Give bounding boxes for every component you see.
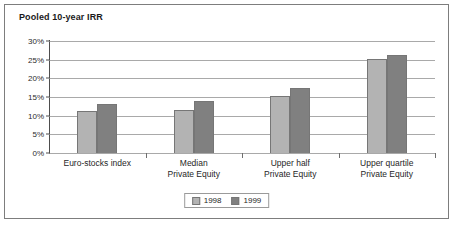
category-separator	[435, 153, 436, 158]
x-axis-category-label-line: Median	[146, 158, 243, 169]
y-axis-tick-label: 15%	[28, 93, 44, 102]
x-axis-category-label-line: Upper half	[242, 158, 339, 169]
y-axis-tick-label: 20%	[28, 74, 44, 83]
legend-label: 1998	[204, 196, 222, 205]
x-axis-category-label-line: Upper quartile	[339, 158, 436, 169]
x-axis-category-label: Upper halfPrivate Equity	[242, 158, 339, 179]
bar-group	[49, 41, 146, 153]
chart-figure: Pooled 10-year IRR 30%25%20%15%10%5%0% E…	[4, 4, 449, 219]
plot-area: 30%25%20%15%10%5%0%	[49, 41, 435, 153]
legend-item-1998[interactable]: 1998	[192, 196, 222, 205]
bar-1999[interactable]	[97, 104, 117, 153]
bar-1998[interactable]	[174, 110, 194, 153]
x-axis-category-label-line: Private Equity	[339, 169, 436, 180]
legend-item-1999[interactable]: 1999	[232, 196, 262, 205]
x-axis-category-label: Upper quartilePrivate Equity	[339, 158, 436, 179]
y-axis-tick-label: 5%	[32, 130, 44, 139]
bar-1998[interactable]	[367, 59, 387, 153]
bar-1998[interactable]	[77, 111, 97, 153]
y-axis-tick-label: 0%	[32, 149, 44, 158]
x-axis-category-label-line: Private Equity	[146, 169, 243, 180]
chart-title: Pooled 10-year IRR	[19, 12, 103, 22]
x-axis-category-label-line: Private Equity	[242, 169, 339, 180]
y-axis-tick-label: 25%	[28, 55, 44, 64]
legend-swatch-1998	[192, 197, 200, 205]
x-axis-category-label: Euro-stocks index	[49, 158, 146, 169]
legend-label: 1999	[244, 196, 262, 205]
y-axis-tick-label: 30%	[28, 37, 44, 46]
bar-1998[interactable]	[270, 96, 290, 153]
bar-group	[339, 41, 436, 153]
legend-swatch-1999	[232, 197, 240, 205]
bar-1999[interactable]	[194, 101, 214, 153]
bar-1999[interactable]	[290, 88, 310, 153]
bar-1999[interactable]	[387, 55, 407, 153]
y-axis-tick-label: 10%	[28, 111, 44, 120]
x-axis-category-label: MedianPrivate Equity	[146, 158, 243, 179]
bar-group	[242, 41, 339, 153]
x-axis-category-label-line: Euro-stocks index	[49, 158, 146, 169]
bar-group	[146, 41, 243, 153]
chart-legend: 19981999	[184, 193, 270, 208]
